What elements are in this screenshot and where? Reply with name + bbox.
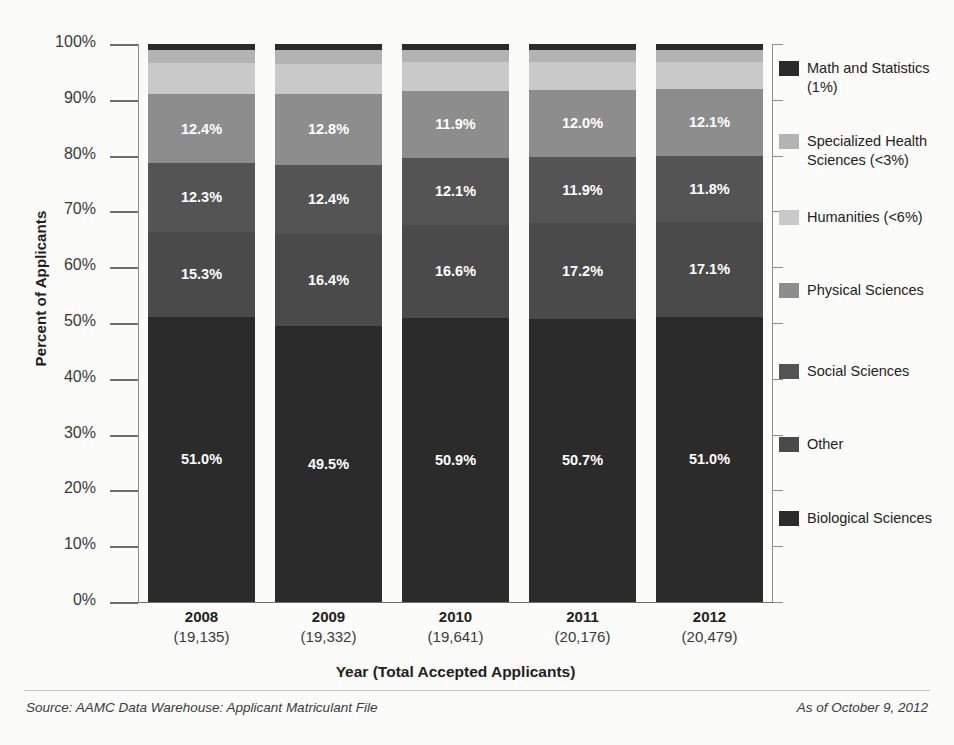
stacked-bar[interactable]: 51.0%17.1%11.8%12.1% (656, 44, 763, 602)
bar-segment[interactable]: 12.4% (148, 94, 255, 163)
bar-segment[interactable] (148, 44, 255, 50)
bar-segment[interactable]: 12.1% (656, 89, 763, 157)
x-axis-title: Year (Total Accepted Applicants) (138, 663, 773, 681)
bar-segment[interactable]: 12.4% (275, 165, 382, 234)
bar-segment-label: 17.2% (562, 264, 603, 279)
footer-source: Source: AAMC Data Warehouse: Applicant M… (26, 700, 377, 715)
stacked-bar[interactable]: 51.0%15.3%12.3%12.4% (148, 44, 255, 602)
bar-segment[interactable]: 51.0% (148, 317, 255, 602)
bar-segment-label: 12.8% (308, 122, 349, 137)
bar-segment-label: 16.4% (308, 273, 349, 288)
bar-segment[interactable] (402, 50, 509, 63)
bar-segment-label: 11.9% (435, 117, 475, 132)
legend-item[interactable]: Biological Sciences (779, 509, 947, 528)
legend-item-label: Social Sciences (807, 362, 909, 381)
y-axis-tick-mark (110, 323, 138, 325)
bar-segment-label: 51.0% (689, 452, 730, 467)
bar-segment[interactable] (529, 62, 636, 90)
bar-segment-label: 50.9% (435, 453, 476, 468)
y-axis-tick-mark (110, 435, 138, 437)
chart-page: Percent of Applicants 100%90%80%70%60%50… (0, 0, 954, 745)
stacked-bar[interactable]: 50.9%16.6%12.1%11.9% (402, 44, 509, 602)
bar-segment[interactable]: 16.6% (402, 225, 509, 318)
legend-item[interactable]: Social Sciences (779, 362, 947, 381)
y-axis-tick-mark (110, 379, 138, 381)
bar-segment[interactable]: 12.0% (529, 90, 636, 157)
legend-item-label: Physical Sciences (807, 281, 924, 300)
y-axis-tick-mark-right (773, 490, 783, 491)
bar-segment[interactable]: 17.2% (529, 223, 636, 319)
stacked-bar[interactable]: 49.5%16.4%12.4%12.8% (275, 44, 382, 602)
y-axis-tick-label: 90% (64, 89, 96, 107)
y-axis-tick-mark-right (773, 100, 783, 101)
legend-color-swatch (779, 61, 799, 76)
legend-color-swatch (779, 437, 799, 452)
bar-segment[interactable] (275, 44, 382, 50)
y-axis-tick-mark (110, 100, 138, 102)
legend-item[interactable]: Other (779, 435, 947, 454)
bar-segment-label: 12.3% (181, 190, 222, 205)
y-axis-tick-mark (110, 211, 138, 213)
legend-color-swatch (779, 210, 799, 225)
bar-segment[interactable]: 49.5% (275, 326, 382, 602)
bar-segment[interactable] (529, 44, 636, 50)
y-axis-tick-mark-right (773, 323, 783, 324)
legend-color-swatch (779, 134, 799, 149)
y-axis-tick-label: 20% (64, 479, 96, 497)
bar-segment-label: 12.4% (308, 192, 349, 207)
bar-segment[interactable]: 12.8% (275, 94, 382, 165)
legend-item[interactable]: Math and Statistics (1%) (779, 59, 947, 97)
legend-color-swatch (779, 283, 799, 298)
legend-item-label: Humanities (<6%) (807, 208, 923, 227)
y-axis-tick-mark-right (773, 546, 783, 547)
legend-color-swatch (779, 364, 799, 379)
bar-segment-label: 12.1% (435, 184, 476, 199)
bar-segment[interactable]: 12.1% (402, 158, 509, 226)
legend-item[interactable]: Physical Sciences (779, 281, 947, 300)
bar-segment-label: 16.6% (435, 264, 476, 279)
bar-segment-label: 12.1% (689, 115, 730, 130)
y-axis-tick-label: 10% (64, 535, 96, 553)
bar-segment[interactable]: 51.0% (656, 317, 763, 602)
legend-item[interactable]: Specialized Health Sciences (<3%) (779, 132, 947, 170)
bar-segment[interactable] (148, 50, 255, 63)
bar-segment-label: 12.0% (562, 116, 603, 131)
bar-segment[interactable] (656, 62, 763, 89)
y-axis-tick-mark (110, 602, 138, 604)
bar-segment[interactable]: 15.3% (148, 232, 255, 317)
y-axis-tick-label: 40% (64, 368, 96, 386)
bar-segment[interactable]: 17.1% (656, 222, 763, 317)
y-axis-tick-mark-right (773, 602, 783, 603)
bar-segment[interactable]: 11.9% (529, 157, 636, 223)
bar-segment[interactable] (275, 64, 382, 94)
y-axis-tick-mark (110, 267, 138, 269)
y-axis-tick-label: 100% (55, 33, 96, 51)
bar-segment[interactable] (402, 62, 509, 91)
bar-segment[interactable] (275, 50, 382, 65)
bar-segment[interactable]: 50.7% (529, 319, 636, 602)
y-axis-tick-mark-right (773, 44, 783, 45)
bar-segment[interactable] (529, 50, 636, 62)
bar-segment[interactable]: 16.4% (275, 234, 382, 326)
bar-segment-label: 51.0% (181, 452, 222, 467)
legend-item[interactable]: Humanities (<6%) (779, 208, 947, 227)
footer-as-of-date: As of October 9, 2012 (797, 700, 928, 715)
bar-segment[interactable]: 50.9% (402, 318, 509, 602)
bar-segment[interactable] (656, 50, 763, 62)
y-axis-tick-label: 80% (64, 145, 96, 163)
bar-segment[interactable]: 12.3% (148, 163, 255, 232)
bar-segment-label: 50.7% (562, 453, 603, 468)
y-axis-tick-mark-right (773, 267, 783, 268)
bar-segment-label: 49.5% (308, 457, 349, 472)
x-axis-year: 2012 (635, 608, 785, 627)
bar-segment[interactable]: 11.8% (656, 156, 763, 222)
y-axis-tick-mark (110, 156, 138, 158)
bar-segment[interactable] (148, 63, 255, 94)
bar-segment[interactable] (656, 44, 763, 50)
x-axis-label: 2012(20,479) (635, 608, 785, 647)
legend-item-label: Other (807, 435, 843, 454)
bar-segment[interactable] (402, 44, 509, 50)
stacked-bar[interactable]: 50.7%17.2%11.9%12.0% (529, 44, 636, 602)
bar-segment[interactable]: 11.9% (402, 91, 509, 157)
y-axis-tick-label: 60% (64, 256, 96, 274)
